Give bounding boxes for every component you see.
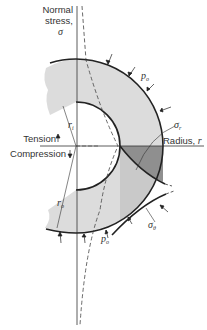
tension-label: Tension	[23, 133, 56, 144]
inner-radius-label: ri	[68, 119, 74, 131]
stress-profile-curve	[80, 6, 118, 325]
x-axis-label: Radius, r	[163, 135, 202, 146]
y-axis-label-line2: stress,	[45, 15, 73, 26]
radial-stress-label: σr	[174, 119, 182, 131]
outer-radius-label: ro	[57, 197, 64, 209]
y-axis-symbol: σ	[58, 26, 64, 37]
stress-diagram: Normal stress, σ Radius, r Tension Compr…	[0, 0, 207, 330]
compression-label: Compression	[10, 148, 66, 159]
hoop-stress-label: σθ	[148, 219, 156, 231]
pressure-top-label: po	[140, 70, 149, 82]
y-axis-label-line1: Normal	[42, 4, 73, 15]
pressure-bottom-label: po	[100, 233, 109, 245]
